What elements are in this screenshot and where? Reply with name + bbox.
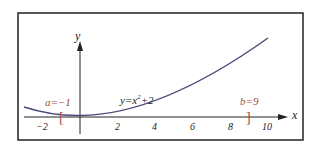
x-tick-label: 8 (228, 121, 233, 132)
b-label: b=9 (240, 95, 258, 107)
x-tick-label: 10 (262, 121, 272, 132)
x-tick-label: 4 (152, 121, 157, 132)
x-tick-label: −2 (36, 121, 48, 132)
x-axis-label: x (292, 108, 297, 123)
curve-label: y=x2+2 (120, 93, 154, 106)
y-axis-label: y (75, 29, 80, 44)
b-bracket: ] (246, 110, 251, 126)
x-tick-label: 6 (190, 121, 195, 132)
a-label: a=−1 (45, 96, 71, 108)
a-bracket: [ (59, 110, 64, 126)
x-tick-label: 2 (115, 121, 120, 132)
